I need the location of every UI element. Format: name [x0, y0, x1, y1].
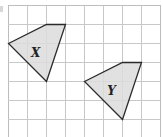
shapes-layer: X Y: [9, 25, 142, 120]
label-y: Y: [107, 84, 117, 98]
label-x: X: [30, 46, 41, 60]
grid-diagram: X Y: [0, 0, 163, 137]
